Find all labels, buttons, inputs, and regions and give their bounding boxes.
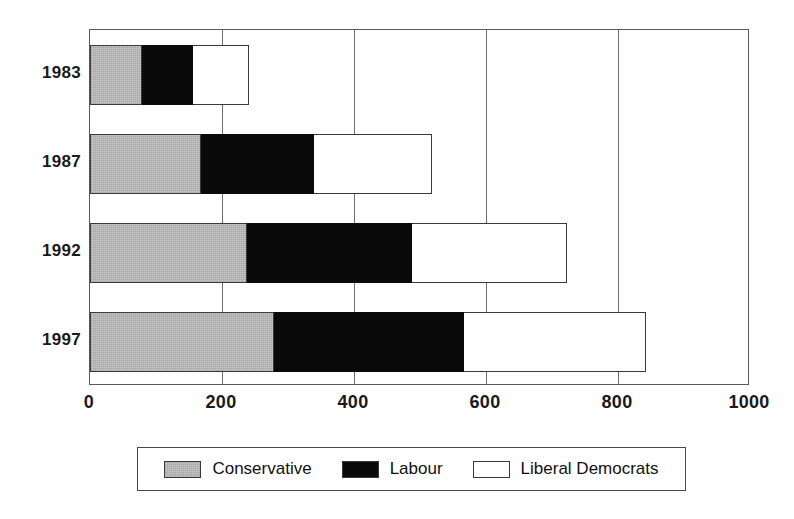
legend-entry[interactable]: Labour	[342, 459, 443, 479]
bar-segment[interactable]	[90, 223, 247, 283]
bar-row[interactable]	[90, 45, 248, 105]
y-axis-category-labels: 1983198719921997	[0, 29, 81, 385]
bar-segment[interactable]	[313, 134, 432, 194]
y-axis-tick-label-1997: 1997	[11, 330, 81, 350]
bar-row[interactable]	[90, 134, 431, 194]
x-axis-tick-labels: 02004006008001000	[0, 392, 794, 422]
bar-segment[interactable]	[246, 223, 412, 283]
legend-label: Labour	[390, 459, 443, 479]
x-axis-tick-label-600: 600	[470, 392, 501, 413]
y-axis-tick-label-1983: 1983	[11, 63, 81, 83]
stacked-bar-chart: 1983198719921997 02004006008001000 Conse…	[0, 0, 794, 519]
bar-segment[interactable]	[411, 223, 567, 283]
bar-segment[interactable]	[200, 134, 314, 194]
chart-legend: ConservativeLabourLiberal Democrats	[137, 447, 686, 491]
labour-swatch	[342, 461, 379, 478]
bar-segment[interactable]	[273, 312, 464, 372]
x-axis-tick-label-0: 0	[84, 392, 94, 413]
bar-segment[interactable]	[90, 312, 274, 372]
legend-entry[interactable]: Liberal Democrats	[473, 459, 659, 479]
bar-segment[interactable]	[90, 134, 201, 194]
bar-row[interactable]	[90, 312, 645, 372]
bar-segment[interactable]	[463, 312, 646, 372]
x-axis-tick-label-1000: 1000	[728, 392, 769, 413]
bar-row[interactable]	[90, 223, 566, 283]
bar-segment[interactable]	[141, 45, 193, 105]
legend-label: Conservative	[212, 459, 311, 479]
x-axis-tick-label-400: 400	[338, 392, 369, 413]
libdem-swatch	[473, 461, 510, 478]
x-axis-tick-label-200: 200	[206, 392, 237, 413]
legend-entry[interactable]: Conservative	[164, 459, 311, 479]
bar-segment[interactable]	[192, 45, 249, 105]
y-axis-tick-label-1987: 1987	[11, 152, 81, 172]
bar-segment[interactable]	[90, 45, 142, 105]
x-axis-tick-label-800: 800	[602, 392, 633, 413]
y-axis-tick-label-1992: 1992	[11, 241, 81, 261]
legend-label: Liberal Democrats	[521, 459, 659, 479]
conservative-swatch	[164, 461, 201, 478]
plot-area	[89, 29, 749, 385]
